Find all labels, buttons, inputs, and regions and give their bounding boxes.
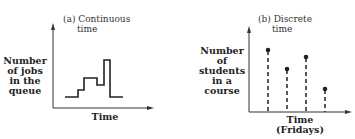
chart-a-y-arrow-icon [51, 23, 55, 30]
chart-b-y-arrow-icon [247, 26, 251, 33]
chart-b-points [266, 48, 328, 92]
chart-a-x-arrow-icon [147, 106, 154, 110]
chart-a-axes [53, 27, 151, 108]
chart-b-axes [249, 30, 348, 112]
chart-b-stems [268, 51, 325, 112]
chart-a-step-line [65, 60, 123, 97]
plot-graphics [0, 0, 355, 139]
chart-b-x-arrow-icon [345, 110, 352, 114]
